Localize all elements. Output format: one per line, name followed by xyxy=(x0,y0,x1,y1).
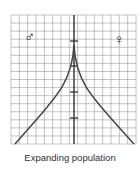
male-symbol-icon: ♂ xyxy=(24,28,35,45)
caption: Expanding population xyxy=(0,152,140,163)
female-symbol-icon: ♀ xyxy=(114,31,125,47)
female-curve xyxy=(74,45,134,144)
pyramid-diagram: ♂ ♀ xyxy=(0,0,140,176)
